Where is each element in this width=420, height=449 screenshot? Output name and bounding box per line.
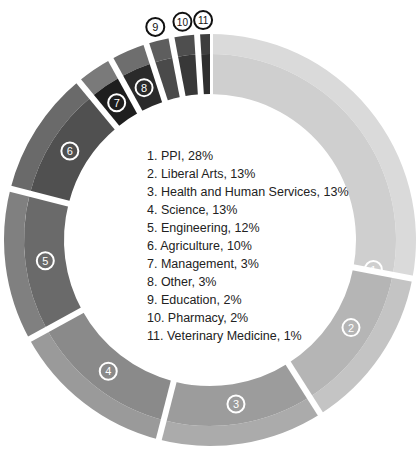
legend-item: 11. Veterinary Medicine, 1% (147, 327, 349, 345)
legend-item: 9. Education, 2% (147, 291, 349, 309)
segment-label: 9 (152, 21, 158, 33)
segment-label: 2 (348, 322, 354, 334)
segment-label: 6 (67, 145, 73, 157)
segment-label: 4 (105, 365, 111, 377)
legend-item: 4. Science, 13% (147, 201, 349, 219)
segment-label: 5 (42, 255, 48, 267)
legend-item: 6. Agriculture, 10% (147, 237, 349, 255)
legend-item: 5. Engineering, 12% (147, 219, 349, 237)
segment-label: 3 (233, 398, 239, 410)
legend-item: 1. PPI, 28% (147, 147, 349, 165)
legend-item: 2. Liberal Arts, 13% (147, 165, 349, 183)
segment-label: 10 (177, 17, 189, 28)
chart-legend: 1. PPI, 28% 2. Liberal Arts, 13% 3. Heal… (147, 147, 349, 345)
segment-label: 11 (198, 15, 209, 26)
segment-label: 7 (114, 97, 120, 109)
legend-item: 7. Management, 3% (147, 255, 349, 273)
legend-item: 3. Health and Human Services, 13% (147, 183, 349, 201)
segment-label: 8 (141, 82, 147, 94)
legend-item: 8. Other, 3% (147, 273, 349, 291)
legend-item: 10. Pharmacy, 2% (147, 309, 349, 327)
